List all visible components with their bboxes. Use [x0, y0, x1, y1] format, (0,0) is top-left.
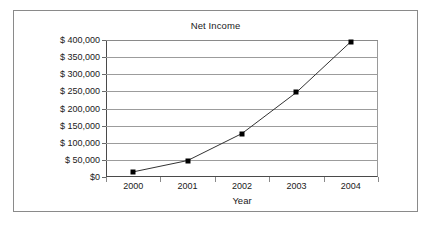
y-axis-tick-label: $ 50,000	[65, 155, 100, 164]
y-axis-tick-label: $ 150,000	[60, 121, 100, 130]
data-point-marker	[294, 90, 299, 95]
chart-frame: Net Income $0$ 50,000$ 100,000$ 150,000$…	[13, 10, 418, 212]
chart-title: Net Income	[14, 20, 417, 31]
y-axis-tick-label: $ 350,000	[60, 53, 100, 62]
x-axis-tick-label: 2000	[123, 181, 143, 191]
data-point-marker	[131, 169, 136, 174]
x-axis-tick-label: 2002	[232, 181, 252, 191]
data-point-marker	[240, 131, 245, 136]
series-line-net-income	[106, 40, 378, 177]
data-point-marker	[185, 158, 190, 163]
y-axis-tick-label: $0	[90, 173, 100, 182]
plot-area	[106, 40, 378, 177]
x-axis-tick	[378, 177, 379, 182]
x-axis-title: Year	[106, 195, 378, 206]
y-axis-labels: $0$ 50,000$ 100,000$ 150,000$ 200,000$ 2…	[14, 40, 100, 177]
data-point-marker	[348, 39, 353, 44]
x-axis-labels: 20002001200220032004	[106, 181, 378, 195]
x-axis-tick-label: 2003	[286, 181, 306, 191]
x-axis-tick-label: 2004	[341, 181, 361, 191]
x-axis-tick-label: 2001	[178, 181, 198, 191]
y-axis-tick-label: $ 100,000	[60, 138, 100, 147]
y-axis-tick-label: $ 400,000	[60, 36, 100, 45]
y-axis-tick-label: $ 200,000	[60, 104, 100, 113]
y-axis-tick-label: $ 250,000	[60, 87, 100, 96]
y-axis-tick-label: $ 300,000	[60, 70, 100, 79]
